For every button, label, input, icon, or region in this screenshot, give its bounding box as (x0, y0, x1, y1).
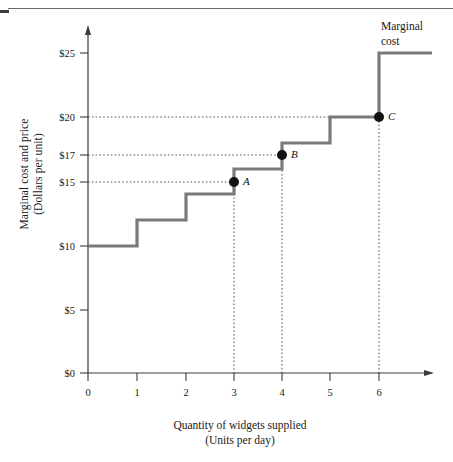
y-tick-label-17: $17 (59, 150, 75, 161)
y-axis-title-line2: (Dollars per unit) (31, 99, 45, 249)
x-tick-label-1: 1 (134, 387, 139, 398)
y-tick-label-10: $10 (59, 241, 75, 252)
x-axis: 0 1 2 3 4 5 6 (85, 370, 434, 398)
curve-label-line1: Marginal (381, 20, 423, 33)
point-a-marker (229, 177, 239, 187)
y-tick-label-0: $0 (65, 368, 76, 379)
y-tick-label-15: $15 (59, 177, 75, 188)
point-c-marker (374, 112, 384, 122)
y-axis-title: Marginal cost and price (Dollars per uni… (17, 99, 45, 249)
x-tick-label-2: 2 (183, 387, 188, 398)
x-axis-title: Quantity of widgets supplied (Units per … (120, 418, 360, 448)
marginal-cost-step-curve (88, 53, 432, 246)
x-axis-title-line2: (Units per day) (120, 433, 360, 448)
x-tick-label-6: 6 (376, 387, 381, 398)
y-axis-title-line1: Marginal cost and price (17, 99, 31, 249)
curve-label-group: Marginal cost (381, 20, 423, 47)
y-tick-label-20: $20 (59, 112, 75, 123)
y-tick-label-25: $25 (59, 48, 75, 59)
point-b-marker (277, 150, 287, 160)
x-axis-title-line1: Quantity of widgets supplied (120, 418, 360, 433)
point-b-label: B (291, 148, 298, 160)
y-axis-arrow (85, 25, 91, 35)
figure-container: $25 $20 $17 $15 $10 $5 $0 0 1 2 3 (0, 0, 453, 462)
x-tick-label-0: 0 (85, 387, 90, 398)
x-tick-label-5: 5 (327, 387, 332, 398)
x-tick-label-4: 4 (279, 387, 285, 398)
x-tick-label-3: 3 (231, 387, 236, 398)
chart-svg: $25 $20 $17 $15 $10 $5 $0 0 1 2 3 (0, 0, 453, 462)
x-axis-arrow (424, 370, 434, 376)
data-point-markers: A B C (229, 110, 396, 187)
curve-label-line2: cost (381, 35, 400, 47)
y-axis: $25 $20 $17 $15 $10 $5 $0 (59, 25, 91, 379)
y-tick-label-5: $5 (65, 305, 76, 316)
point-a-label: A (242, 175, 250, 187)
point-c-label: C (388, 110, 396, 122)
